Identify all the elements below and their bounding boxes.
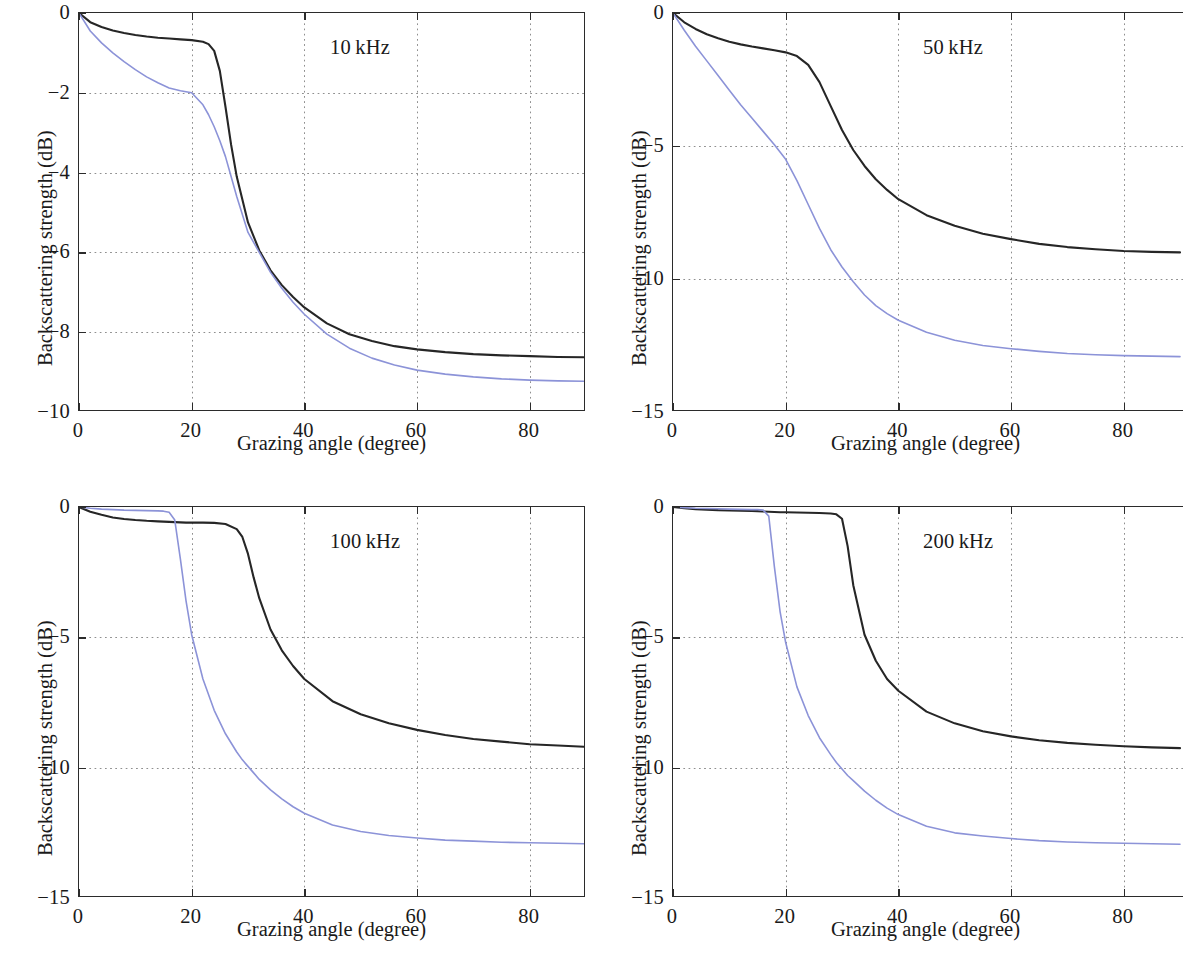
- x-tick-mark: [786, 889, 787, 896]
- x-tick-mark: [898, 889, 899, 896]
- y-tick-mark: [673, 507, 680, 508]
- y-tick-label: 0: [606, 495, 664, 518]
- panel-200khz: 0204060800−5−10−15Grazing angle (degree)…: [0, 0, 1183, 968]
- y-tick-mark: [673, 768, 680, 769]
- curve-layer: [673, 507, 1183, 897]
- y-axis-title: Backscattering strength (dB): [628, 620, 651, 856]
- x-tick-mark-top: [1011, 507, 1012, 514]
- plot-frame: [672, 506, 1183, 897]
- x-tick-mark-top: [898, 507, 899, 514]
- frequency-label: 200 kHz: [923, 530, 993, 553]
- x-tick-mark: [1011, 889, 1012, 896]
- x-tick-mark: [1124, 889, 1125, 896]
- y-tick-mark: [673, 637, 680, 638]
- x-axis-title: Grazing angle (degree): [672, 918, 1179, 941]
- y-tick-label: −15: [606, 886, 664, 909]
- backscattering-figure: 0204060800−2−4−6−8−10Grazing angle (degr…: [0, 0, 1183, 968]
- x-tick-mark: [673, 889, 674, 896]
- curve-blue-curve: [673, 507, 1180, 844]
- x-tick-mark-top: [786, 507, 787, 514]
- x-tick-mark-top: [1124, 507, 1125, 514]
